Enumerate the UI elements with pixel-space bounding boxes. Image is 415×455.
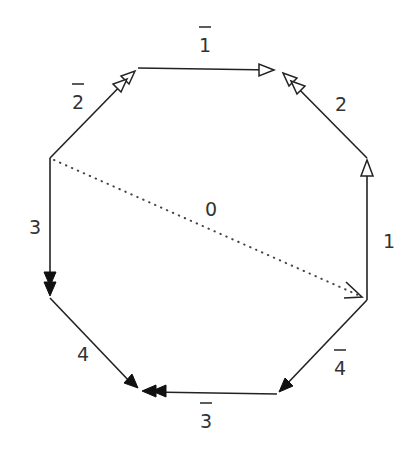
svg-text:4: 4 <box>77 343 89 365</box>
svg-text:2: 2 <box>335 93 347 115</box>
svg-text:2: 2 <box>72 91 84 113</box>
svg-text:1: 1 <box>383 230 395 252</box>
svg-text:3: 3 <box>200 410 212 432</box>
edge-4 <box>50 298 132 384</box>
edge-3-bar <box>150 392 277 394</box>
arrowhead-open-icon <box>361 160 373 176</box>
arrowhead-filled-icon <box>124 374 138 388</box>
label-3-bar: 3 <box>200 403 212 432</box>
octagon-diagram: 1 2 2 1 3 0 4 4 3 <box>0 0 415 455</box>
svg-text:3: 3 <box>29 216 41 238</box>
label-1-bar: 1 <box>199 27 211 56</box>
label-2: 2 <box>335 93 347 115</box>
svg-text:0: 0 <box>205 198 217 220</box>
arrowhead-open-icon <box>259 64 274 76</box>
label-4-bar: 4 <box>334 350 346 379</box>
label-3: 3 <box>29 216 41 238</box>
double-arrowhead-open-icon <box>113 71 135 92</box>
double-arrowhead-filled-icon <box>142 385 166 397</box>
label-2-bar: 2 <box>72 84 84 113</box>
label-1: 1 <box>383 230 395 252</box>
double-arrowhead-filled-icon <box>44 272 56 296</box>
arrowhead-line-icon <box>344 282 362 298</box>
label-0: 0 <box>205 198 217 220</box>
edge-4-bar <box>284 300 367 387</box>
label-4: 4 <box>77 343 89 365</box>
svg-text:4: 4 <box>334 357 346 379</box>
edge-0-dotted <box>54 160 358 295</box>
svg-text:1: 1 <box>199 34 211 56</box>
edge-1-bar <box>138 68 272 70</box>
